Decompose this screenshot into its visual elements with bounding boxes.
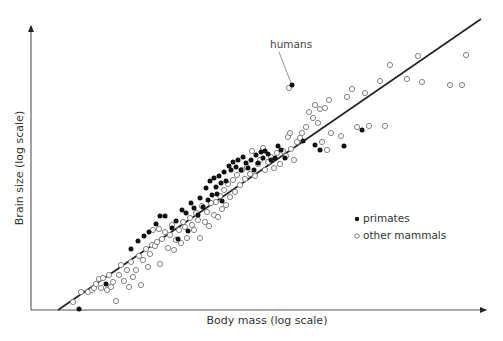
primate-point — [212, 176, 217, 181]
other-mammal-point — [277, 161, 282, 166]
y-axis-label: Brain size (log scale) — [13, 111, 26, 225]
primate-point — [254, 153, 259, 158]
primate-point — [158, 214, 163, 219]
primate-point — [170, 226, 175, 231]
other-mammal-point — [322, 105, 327, 110]
other-mammal-point — [184, 235, 189, 240]
other-mammal-point — [187, 215, 192, 220]
primate-point — [174, 219, 179, 224]
primate-point — [77, 307, 82, 312]
other-mammal-point — [234, 172, 239, 177]
other-mammal-point — [195, 217, 200, 222]
other-mammal-point — [116, 272, 121, 277]
other-mammal-point — [230, 177, 235, 182]
primate-point — [229, 168, 234, 173]
other-mammal-point — [108, 284, 113, 289]
other-mammal-point — [167, 232, 172, 237]
primate-point — [189, 201, 194, 206]
other-mammal-point — [124, 267, 129, 272]
other-mammal-point — [447, 82, 452, 87]
other-mammal-point — [93, 281, 98, 286]
other-mammal-point — [145, 264, 150, 269]
other-mammal-point — [78, 289, 83, 294]
other-mammal-point — [299, 130, 304, 135]
primate-point — [129, 247, 134, 252]
other-mammal-point — [162, 229, 167, 234]
other-mammal-point — [459, 82, 464, 87]
other-mammal-point — [242, 176, 247, 181]
primate-point — [241, 155, 246, 160]
other-mammal-point — [306, 109, 311, 114]
other-mammal-point — [126, 284, 131, 289]
other-mammal-point — [366, 123, 371, 128]
primate-point — [217, 174, 222, 179]
other-mammal-point — [219, 206, 224, 211]
other-mammal-point — [404, 76, 409, 81]
primate-point — [239, 168, 244, 173]
legend-primates-marker — [355, 217, 359, 221]
other-mammal-point — [326, 97, 331, 102]
primate-point — [231, 160, 236, 165]
other-mammal-point — [121, 278, 126, 283]
primate-point — [261, 156, 266, 161]
primate-point — [204, 186, 209, 191]
primate-point — [220, 199, 225, 204]
x-axis-label: Body mass (log scale) — [207, 314, 328, 327]
primate-point — [279, 148, 284, 153]
other-mammal-point — [156, 226, 161, 231]
primate-point — [210, 193, 215, 198]
other-mammal-point — [180, 219, 185, 224]
other-mammals-points — [70, 52, 468, 304]
other-mammal-point — [147, 251, 152, 256]
primate-point — [266, 152, 271, 157]
legend: primates other mammals — [355, 212, 446, 241]
other-mammal-point — [136, 253, 141, 258]
other-mammal-point — [215, 214, 220, 219]
primate-point — [222, 170, 227, 175]
other-mammal-point — [387, 62, 392, 67]
primate-point — [252, 168, 257, 173]
other-mammal-point — [98, 285, 103, 290]
other-mammal-point — [382, 123, 387, 128]
primate-point — [215, 192, 220, 197]
other-mammal-point — [288, 146, 293, 151]
other-mammal-point — [221, 187, 226, 192]
other-mammal-point — [312, 102, 317, 107]
other-mammal-point — [130, 274, 135, 279]
scatter-chart: humans primates other mammals Body mass … — [0, 0, 503, 341]
other-mammal-point — [154, 239, 159, 244]
primate-point — [180, 208, 185, 213]
humans-annotation: humans — [270, 38, 312, 50]
primate-point — [318, 148, 323, 153]
primate-point — [154, 222, 159, 227]
other-mammal-point — [159, 236, 164, 241]
other-mammal-point — [213, 199, 218, 204]
other-mammal-point — [128, 259, 133, 264]
primate-point — [360, 128, 365, 133]
other-mammal-point — [377, 78, 382, 83]
other-mammal-point — [106, 272, 111, 277]
other-mammal-point — [138, 282, 143, 287]
primate-point — [176, 237, 181, 242]
other-mammal-point — [232, 189, 237, 194]
other-mammal-point — [197, 235, 202, 240]
other-mammal-point — [349, 86, 354, 91]
primate-point — [186, 229, 191, 234]
other-mammal-point — [202, 219, 207, 224]
primate-point — [244, 161, 249, 166]
other-mammal-point — [338, 133, 343, 138]
other-mammal-point — [165, 245, 170, 250]
other-mammal-point — [324, 147, 329, 152]
humans-leader-line — [279, 52, 291, 83]
primate-point — [163, 214, 168, 219]
other-mammal-point — [354, 124, 359, 129]
primate-point — [219, 181, 224, 186]
other-mammal-point — [328, 130, 333, 135]
primate-point — [224, 179, 229, 184]
other-mammal-point — [206, 223, 211, 228]
other-mammal-point — [463, 52, 468, 57]
other-mammal-point — [70, 299, 75, 304]
primate-point — [313, 143, 318, 148]
other-mammal-point — [344, 94, 349, 99]
legend-primates-label: primates — [363, 212, 410, 224]
